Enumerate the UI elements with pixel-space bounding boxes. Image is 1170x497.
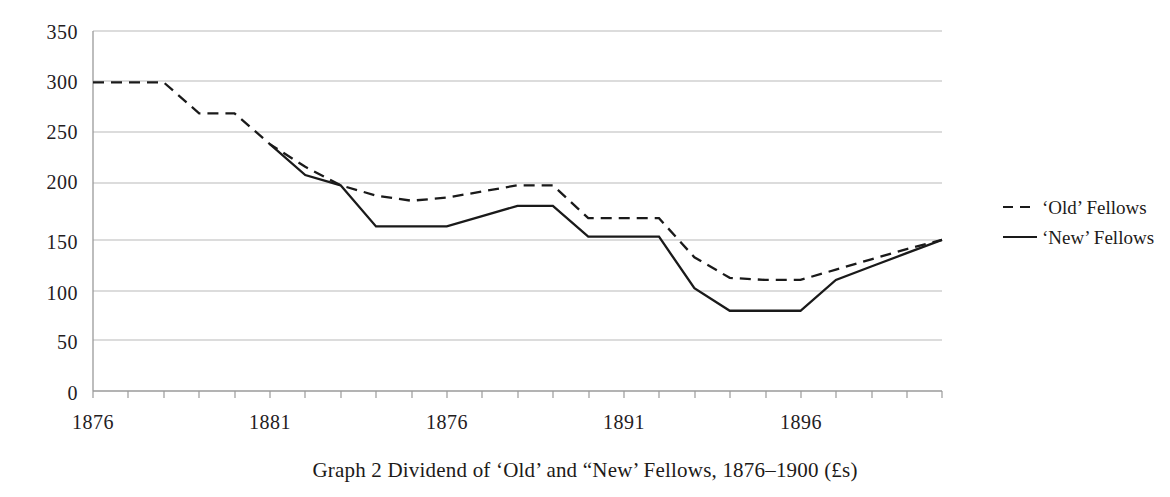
series-line (93, 82, 942, 279)
x-tick-label: 1876 (426, 412, 468, 432)
legend-item-old-fellows: ‘Old’ Fellows (1002, 192, 1167, 222)
x-tick-label: 1891 (603, 412, 645, 432)
legend-dashed-line-icon (1002, 200, 1038, 214)
series-layer (93, 82, 942, 310)
legend-item-new-fellows: ‘New’ Fellows (1002, 222, 1167, 252)
legend-label-old-fellows: ‘Old’ Fellows (1038, 198, 1147, 217)
figure-caption: Graph 2 Dividend of ‘Old’ and “New’ Fell… (0, 458, 1170, 483)
x-tick-label: 1876 (72, 412, 114, 432)
graph-figure: 350 300 250 200 150 100 50 0 (0, 0, 1170, 497)
x-tick-label: 1881 (249, 412, 291, 432)
chart-legend: ‘Old’ Fellows ‘New’ Fellows (1002, 192, 1167, 252)
legend-label-new-fellows: ‘New’ Fellows (1038, 228, 1154, 247)
x-tick-label: 1896 (780, 412, 822, 432)
x-axis-labels: 1876 1881 1876 1891 1896 (0, 412, 1170, 446)
gridlines (93, 31, 942, 340)
series-line (270, 144, 942, 311)
x-axis-ticks (93, 391, 942, 398)
legend-solid-line-icon (1002, 230, 1038, 244)
